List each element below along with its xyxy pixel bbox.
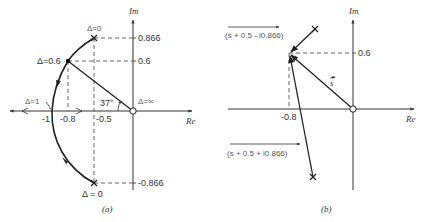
re-axis-label-b: Re xyxy=(405,114,416,124)
xtick-neg08: -0.8 xyxy=(60,114,76,124)
delta1-pointer xyxy=(46,102,51,109)
pole-upper-icon-b xyxy=(312,26,318,32)
ytick-0866: 0.866 xyxy=(138,33,161,43)
label-delta06: Δ=0.6 xyxy=(37,56,61,66)
xtick-neg05: -0.5 xyxy=(96,114,112,124)
panel-b: Im Re 0.6 -0.8 s (s + 0.5 - i0.866) (s +… xyxy=(225,6,416,214)
root-locus-figure: Im Re 0.866 0.6 -0.866 -1 -0.8 -0.5 37° … xyxy=(0,0,422,222)
panel-a: Im Re 0.866 0.6 -0.866 -1 -0.8 -0.5 37° … xyxy=(10,6,196,214)
caption-a: (a) xyxy=(102,204,113,214)
im-axis-label: Im xyxy=(128,6,139,16)
xtick-neg1: -1 xyxy=(42,114,50,124)
ytick-neg0866: -0.866 xyxy=(138,178,164,188)
label-vector-s: s xyxy=(330,78,334,88)
angle-label: 37° xyxy=(100,98,114,108)
label-delta-inf: Δ=∞ xyxy=(138,97,154,106)
point-delta-06 xyxy=(66,59,70,63)
re-axis-label: Re xyxy=(185,116,196,126)
label-delta1: Δ=1 xyxy=(25,97,40,106)
label-delta0-top: Δ=0 xyxy=(87,24,102,33)
im-axis-label-b: Im xyxy=(348,6,359,16)
origin-zero-icon xyxy=(130,108,136,114)
caption-b: (b) xyxy=(321,204,332,214)
vector-s xyxy=(291,55,353,109)
xtick-neg08-b: -0.8 xyxy=(281,112,297,122)
label-vector-lower: (s + 0.5 + i0.866) xyxy=(227,149,288,158)
label-delta0-bottom: Δ = 0 xyxy=(82,189,103,199)
label-vector-upper: (s + 0.5 - i0.866) xyxy=(225,31,284,40)
vector-upper xyxy=(291,29,315,52)
ytick-06-b: 0.6 xyxy=(358,48,371,58)
origin-zero-icon-b xyxy=(350,106,356,112)
angle-arc xyxy=(118,101,121,111)
ytick-06: 0.6 xyxy=(138,56,151,66)
